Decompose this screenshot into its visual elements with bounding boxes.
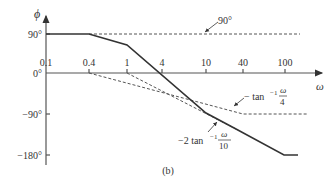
x-tick-1: 1 xyxy=(125,57,130,68)
annotation-tan10-pointer xyxy=(208,122,217,132)
x-axis-label: ω xyxy=(316,80,324,92)
x-tick-0.1: 0.1 xyxy=(40,57,53,68)
x-tick-100: 100 xyxy=(278,57,293,68)
svg-text:−1: −1 xyxy=(270,89,278,97)
annotation-tan4-label: − tan −1 ω 4 xyxy=(244,85,287,107)
svg-text:ω: ω xyxy=(221,129,227,139)
x-tick-40: 40 xyxy=(238,57,248,68)
svg-text:−2 tan: −2 tan xyxy=(178,135,203,146)
figure-caption: (b) xyxy=(162,165,174,177)
annotation-90-label: 90° xyxy=(218,15,232,26)
y-tick-neg90: −90° xyxy=(22,109,42,120)
annotation-tan4-pointer xyxy=(234,98,244,106)
y-tick-90: 90° xyxy=(28,29,42,40)
annotation-90-pointer xyxy=(205,22,218,32)
x-tick-0.4: 0.4 xyxy=(83,57,96,68)
svg-text:ω: ω xyxy=(280,85,286,95)
x-tick-10: 10 xyxy=(201,57,211,68)
svg-text:− tan: − tan xyxy=(244,91,264,102)
x-tick-4: 4 xyxy=(160,57,165,68)
y-axis-label: ϕ xyxy=(34,7,40,21)
svg-text:−1: −1 xyxy=(210,133,218,141)
bode-phase-plot: ϕ 90° 0° −90° −180° 0.1 0.4 1 4 10 40 10… xyxy=(0,0,334,187)
y-tick-0: 0° xyxy=(33,68,42,79)
svg-text:4: 4 xyxy=(280,97,285,107)
svg-text:10: 10 xyxy=(219,141,229,151)
y-tick-neg180: −180° xyxy=(17,150,42,161)
annotation-tan10-label: −2 tan −1 ω 10 xyxy=(178,129,231,151)
